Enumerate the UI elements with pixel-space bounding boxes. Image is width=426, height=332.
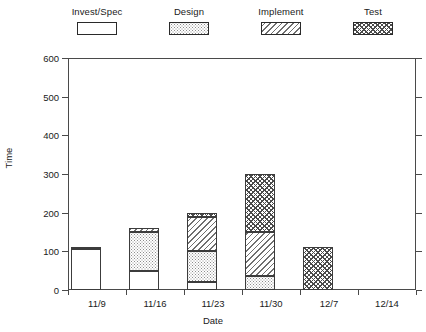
legend-swatch-icon <box>77 22 117 35</box>
bar-segment-test <box>303 247 333 290</box>
y-axis-tick <box>62 58 68 59</box>
y-axis-tick <box>62 135 68 136</box>
x-axis-tick-label: 12/7 <box>320 298 339 309</box>
y-axis-tick <box>62 97 68 98</box>
chart-legend: Invest/SpecDesignImplementTest <box>55 6 415 48</box>
bar-segment-design <box>187 251 217 282</box>
y-axis-tick-label: 500 <box>43 91 59 102</box>
x-axis-tick-label: 11/23 <box>201 298 224 309</box>
legend-label: Invest/Spec <box>72 6 123 18</box>
x-axis-tick <box>126 290 127 295</box>
x-axis-tick <box>300 290 301 295</box>
legend-entry: Test <box>331 6 415 35</box>
bar-11-9 <box>71 247 101 290</box>
y-axis-tick-label: 400 <box>43 130 59 141</box>
legend-entry: Implement <box>239 6 323 35</box>
bar-segment-implement <box>187 217 217 252</box>
x-axis-tick <box>68 290 69 295</box>
legend-label: Implement <box>258 6 303 18</box>
x-axis-title: Date <box>0 315 426 326</box>
y-axis-tick-label: 600 <box>43 53 59 64</box>
bar-segment-design <box>245 276 275 290</box>
y-axis-title: Time <box>3 148 14 169</box>
stacked-bar-chart: Invest/SpecDesignImplementTest 010020030… <box>0 0 426 332</box>
bar-segment-invest-spec <box>129 271 159 290</box>
x-axis-tick-label: 11/16 <box>143 298 166 309</box>
x-axis-tick <box>416 290 417 295</box>
bar-segment-test <box>187 213 217 217</box>
bar-11-23 <box>187 213 217 290</box>
x-axis-tick-label: 11/30 <box>259 298 282 309</box>
legend-label: Test <box>364 6 382 18</box>
y-axis-tick-right <box>416 213 422 214</box>
bar-11-16 <box>129 228 159 290</box>
x-axis-tick <box>358 290 359 295</box>
bar-segment-implement <box>245 232 275 276</box>
y-axis-tick-right <box>416 135 422 136</box>
x-axis-tick-label: 12/14 <box>375 298 399 309</box>
legend-swatch-icon <box>169 22 209 35</box>
bar-11-30 <box>245 174 275 290</box>
bar-segment-design <box>129 232 159 271</box>
legend-swatch-icon <box>353 22 393 35</box>
bar-segment-invest-spec <box>71 249 101 290</box>
bar-segment-invest-spec <box>187 282 217 290</box>
y-axis-tick <box>62 251 68 252</box>
legend-entry: Invest/Spec <box>55 6 139 35</box>
y-axis-tick-right <box>416 58 422 59</box>
legend-swatch-icon <box>261 22 301 35</box>
y-axis-tick-label: 100 <box>43 246 59 257</box>
bar-segment-design <box>71 247 101 250</box>
y-axis-tick <box>62 174 68 175</box>
x-axis-tick <box>184 290 185 295</box>
y-axis-tick <box>62 213 68 214</box>
x-axis-tick-label: 11/9 <box>88 298 106 309</box>
y-axis-tick-label: 0 <box>54 285 59 296</box>
legend-entry: Design <box>147 6 231 35</box>
legend-label: Design <box>174 6 204 18</box>
y-axis-tick-right <box>416 174 422 175</box>
bar-segment-implement <box>129 228 159 232</box>
y-axis-tick-label: 200 <box>43 207 59 218</box>
plot-area: 010020030040050060011/911/1611/2311/3012… <box>68 58 416 290</box>
y-axis-tick-right <box>416 97 422 98</box>
y-axis-tick-right <box>416 251 422 252</box>
bar-segment-test <box>245 174 275 232</box>
x-axis-tick <box>242 290 243 295</box>
y-axis-tick-label: 300 <box>43 169 59 180</box>
bar-12-7 <box>303 247 333 290</box>
